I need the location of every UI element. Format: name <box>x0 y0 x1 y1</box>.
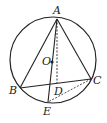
label-a: A <box>52 4 61 17</box>
geometry-diagram: A O B C D E <box>0 0 107 123</box>
label-c: C <box>93 74 102 87</box>
segment-ab <box>20 19 57 88</box>
label-e: E <box>42 105 51 118</box>
label-b: B <box>8 84 17 97</box>
label-o: O <box>42 55 51 68</box>
label-d: D <box>53 85 63 98</box>
segment-ac <box>57 19 91 79</box>
